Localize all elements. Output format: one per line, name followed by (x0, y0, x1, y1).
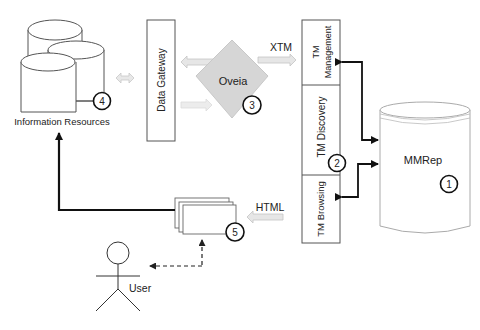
step-number-badge: 5 (226, 223, 244, 241)
tm-browsing-mmrep-connector (342, 164, 378, 197)
tm-management-mmrep-connector (342, 62, 378, 140)
gray-arrow-right-icon (258, 54, 296, 66)
badge-number: 1 (446, 179, 452, 190)
information-resources-node: 4 Information Resources (14, 20, 110, 127)
oveia-label: Oveia (219, 75, 249, 87)
stick-figure-icon (96, 242, 140, 311)
html-edge: HTML (247, 201, 284, 223)
gray-double-arrow-icon (116, 73, 134, 83)
tm-discovery-label: TM Discovery (316, 96, 327, 157)
html-pages-node: 5 (175, 198, 244, 241)
tm-column: TM Management TM Discovery 2 TM Browsing (302, 20, 346, 243)
data-gateway-label: Data Gateway (156, 48, 167, 111)
step-number-badge: 1 (441, 176, 458, 193)
tm-management-label-line2: Management (323, 25, 333, 78)
badge-number: 3 (249, 100, 255, 111)
gray-arrow-right-icon (181, 99, 212, 111)
data-gateway-node: Data Gateway (147, 20, 175, 141)
database-cylinder-icon (21, 53, 76, 112)
badge-number: 4 (99, 96, 105, 107)
architecture-diagram: 4 Information Resources Data Gateway Ove… (0, 0, 480, 330)
user-label: User (129, 282, 152, 294)
user-pages-interaction (150, 240, 202, 266)
step-number-badge: 2 (329, 155, 346, 172)
mmrep-node: MMRep 1 (380, 102, 470, 233)
tm-browsing-section: TM Browsing (315, 181, 326, 236)
xtm-edge: XTM (258, 41, 296, 66)
pages-to-resources-connector (59, 133, 175, 210)
user-actor: User (96, 242, 152, 311)
mmrep-label: MMRep (404, 154, 443, 166)
html-label: HTML (256, 201, 285, 213)
badge-number: 2 (334, 158, 340, 169)
step-number-badge: 3 (243, 96, 261, 114)
tm-browsing-label: TM Browsing (315, 181, 326, 236)
information-resources-label: Information Resources (14, 116, 110, 127)
step-number-badge: 4 (94, 93, 111, 110)
xtm-label: XTM (270, 41, 292, 53)
tm-management-label-line1: TM (311, 46, 321, 59)
badge-number: 5 (232, 227, 238, 238)
